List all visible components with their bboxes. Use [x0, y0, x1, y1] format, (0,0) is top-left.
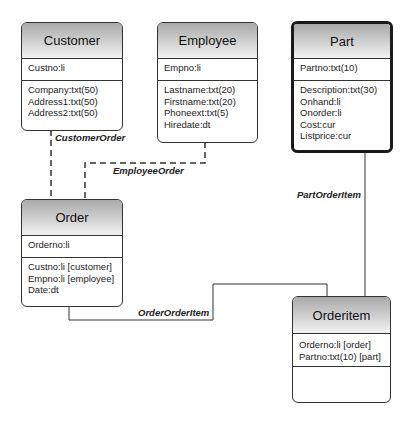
attribute: Custno:li — [28, 62, 116, 74]
attribute: Address2:txt(50) — [28, 107, 116, 119]
attribute: Empno:li — [164, 62, 251, 74]
entity-order-key-section: Orderno:li — [22, 236, 122, 258]
attribute: Hiredate:dt — [164, 119, 251, 131]
relationship-label-employee-order[interactable]: EmployeeOrder — [113, 165, 184, 176]
attribute: Description:txt(30) — [300, 84, 384, 96]
entity-customer-key-section: Custno:li — [22, 59, 122, 81]
attribute: Lastname:txt(20) — [164, 84, 251, 96]
relationship-label-customer-order[interactable]: CustomerOrder — [55, 132, 125, 143]
entity-customer-title: Customer — [44, 33, 100, 48]
attribute: Cost:cur — [300, 119, 384, 131]
entity-customer[interactable]: Customer Custno:li Company:txt(50) Addre… — [21, 22, 123, 131]
entity-part-key-section: Partno:txt(10) — [294, 59, 390, 81]
entity-order-header: Order — [22, 200, 122, 236]
attribute: Onhand:li — [300, 96, 384, 108]
attribute: Date:dt — [28, 284, 116, 296]
attribute: Partno:txt(10) [part] — [299, 351, 384, 363]
entity-order[interactable]: Order Orderno:li Custno:li [customer] Em… — [21, 199, 123, 307]
attribute: Address1:txt(50) — [28, 96, 116, 108]
entity-part-header: Part — [294, 24, 390, 59]
entity-order-attributes-section: Custno:li [customer] Empno:li [employee]… — [22, 258, 122, 298]
entity-orderitem-key-section: Orderno:li [order] Partno:txt(10) [part] — [293, 334, 390, 367]
entity-part[interactable]: Part Partno:txt(10) Description:txt(30) … — [291, 21, 393, 153]
entity-employee-key-section: Empno:li — [158, 59, 257, 81]
entity-orderitem-header: Orderitem — [293, 297, 390, 334]
entity-order-title: Order — [55, 210, 88, 225]
attribute: Phoneext:txt(5) — [164, 107, 251, 119]
entity-orderitem[interactable]: Orderitem Orderno:li [order] Partno:txt(… — [292, 296, 391, 403]
attribute: Partno:txt(10) — [300, 62, 384, 74]
entity-employee-attributes-section: Lastname:txt(20) Firstname:txt(20) Phone… — [158, 81, 257, 132]
attribute: Firstname:txt(20) — [164, 96, 251, 108]
attribute: Empno:li [employee] — [28, 273, 116, 285]
attribute: Onorder:li — [300, 107, 384, 119]
entity-employee-header: Employee — [158, 23, 257, 59]
entity-orderitem-title: Orderitem — [313, 308, 371, 323]
entity-part-attributes-section: Description:txt(30) Onhand:li Onorder:li… — [294, 81, 390, 144]
attribute: Orderno:li [order] — [299, 339, 384, 351]
relationship-label-order-orderitem[interactable]: OrderOrderItem — [138, 307, 209, 318]
entity-orderitem-attributes-section — [293, 367, 390, 372]
attribute: Custno:li [customer] — [28, 261, 116, 273]
attribute: Listprice:cur — [300, 130, 384, 142]
attribute: Company:txt(50) — [28, 84, 116, 96]
entity-part-title: Part — [330, 34, 354, 49]
entity-employee-title: Employee — [179, 33, 237, 48]
entity-customer-attributes-section: Company:txt(50) Address1:txt(50) Address… — [22, 81, 122, 121]
entity-customer-header: Customer — [22, 23, 122, 59]
attribute: Orderno:li — [28, 239, 116, 251]
relationship-label-part-orderitem[interactable]: PartOrderItem — [297, 189, 361, 200]
entity-employee[interactable]: Employee Empno:li Lastname:txt(20) First… — [157, 22, 258, 143]
